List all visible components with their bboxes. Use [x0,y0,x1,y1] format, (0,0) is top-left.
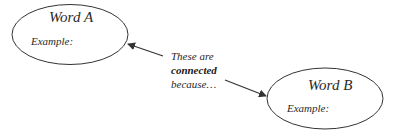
word-a-title: Word A [49,9,93,26]
arrow-to-word-b [225,80,266,96]
diagram-canvas: Word A Example: These are connected beca… [0,0,396,137]
arrow-to-word-a [128,44,163,56]
word-b-example-label: Example: [287,102,329,114]
word-b-title: Word B [308,77,352,94]
connector-explanation: These are connected because… [171,49,217,91]
connector-line-2: connected [171,63,217,77]
word-a-example-label: Example: [31,35,73,47]
connector-line-3: because… [171,77,217,91]
connector-line-1: These are [171,49,217,63]
